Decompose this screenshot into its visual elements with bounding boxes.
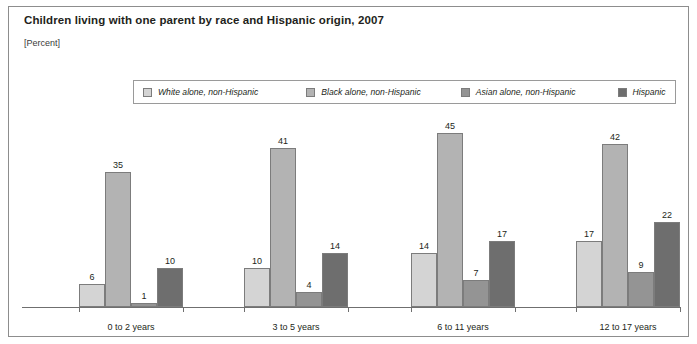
- bar[interactable]: [489, 241, 515, 307]
- bar-value-label: 7: [463, 268, 489, 278]
- bar-value-label: 14: [322, 241, 348, 251]
- legend-swatch-icon: [143, 88, 152, 97]
- legend-item-2[interactable]: Asian alone, non-Hispanic: [461, 87, 576, 97]
- bar-column[interactable]: 35: [105, 110, 131, 307]
- bar-column[interactable]: 6: [79, 110, 105, 307]
- bar-value-label: 4: [296, 280, 322, 290]
- bar-group: 1445717: [411, 110, 515, 307]
- bar[interactable]: [628, 272, 654, 307]
- bar[interactable]: [576, 241, 602, 307]
- legend-swatch-icon: [306, 88, 315, 97]
- bar-value-label: 6: [79, 272, 105, 282]
- x-axis-tick: [348, 307, 349, 312]
- x-axis-tick: [411, 307, 412, 312]
- legend-label: Asian alone, non-Hispanic: [476, 87, 576, 97]
- bar-value-label: 9: [628, 260, 654, 270]
- bar-value-label: 14: [411, 241, 437, 251]
- legend-label: Black alone, non-Hispanic: [321, 87, 420, 97]
- bar-column[interactable]: 10: [157, 110, 183, 307]
- legend-swatch-icon: [618, 88, 627, 97]
- bar-column[interactable]: 14: [411, 110, 437, 307]
- bar[interactable]: [654, 222, 680, 307]
- x-axis-category-label: 3 to 5 years: [272, 322, 319, 332]
- x-axis-tick: [515, 307, 516, 312]
- bar-column[interactable]: 17: [489, 110, 515, 307]
- x-axis-tick: [183, 307, 184, 312]
- bar[interactable]: [244, 268, 270, 307]
- legend-label: Hispanic: [633, 87, 666, 97]
- bar-column[interactable]: 17: [576, 110, 602, 307]
- bar[interactable]: [322, 253, 348, 307]
- bar-column[interactable]: 14: [322, 110, 348, 307]
- bar[interactable]: [463, 280, 489, 307]
- x-axis-tick: [576, 307, 577, 312]
- bar-column[interactable]: 9: [628, 110, 654, 307]
- bar-column[interactable]: 7: [463, 110, 489, 307]
- bar-column[interactable]: 41: [270, 110, 296, 307]
- chart-subtitle: [Percent]: [24, 38, 60, 48]
- chart-legend: White alone, non-HispanicBlack alone, no…: [133, 80, 676, 104]
- bar-value-label: 17: [489, 229, 515, 239]
- bar-column[interactable]: 10: [244, 110, 270, 307]
- bar-column[interactable]: 45: [437, 110, 463, 307]
- bar[interactable]: [270, 148, 296, 307]
- bar[interactable]: [79, 284, 105, 307]
- bar-value-label: 17: [576, 229, 602, 239]
- bar-value-label: 1: [131, 291, 157, 301]
- bar[interactable]: [437, 133, 463, 307]
- chart-figure: Children living with one parent by race …: [0, 0, 697, 344]
- x-axis-tick: [244, 307, 245, 312]
- bar-column[interactable]: 42: [602, 110, 628, 307]
- x-axis-category-label: 0 to 2 years: [107, 322, 154, 332]
- legend-label: White alone, non-Hispanic: [158, 87, 258, 97]
- bar-value-label: 10: [244, 256, 270, 266]
- bar-group: 1742922: [576, 110, 680, 307]
- x-axis-line: [22, 307, 680, 308]
- bar[interactable]: [105, 172, 131, 307]
- x-axis-category-label: 12 to 17 years: [599, 322, 656, 332]
- x-axis-tick: [79, 307, 80, 312]
- legend-item-1[interactable]: Black alone, non-Hispanic: [306, 87, 420, 97]
- bar-group: 635110: [79, 110, 183, 307]
- bar-value-label: 42: [602, 132, 628, 142]
- bar-column[interactable]: 4: [296, 110, 322, 307]
- bar[interactable]: [602, 144, 628, 307]
- bar-column[interactable]: 1: [131, 110, 157, 307]
- plot-area: 635110104141414457171742922: [22, 110, 680, 307]
- bar[interactable]: [411, 253, 437, 307]
- bar-column[interactable]: 22: [654, 110, 680, 307]
- bar-value-label: 45: [437, 121, 463, 131]
- legend-swatch-icon: [461, 88, 470, 97]
- bar-value-label: 41: [270, 136, 296, 146]
- bar-value-label: 10: [157, 256, 183, 266]
- chart-title: Children living with one parent by race …: [24, 14, 384, 26]
- bar-value-label: 35: [105, 160, 131, 170]
- x-axis-category-label: 6 to 11 years: [437, 322, 488, 332]
- bar[interactable]: [296, 292, 322, 307]
- bar[interactable]: [157, 268, 183, 307]
- x-axis-tick: [680, 307, 681, 312]
- bar-value-label: 22: [654, 210, 680, 220]
- bar-group: 1041414: [244, 110, 348, 307]
- legend-item-3[interactable]: Hispanic: [618, 87, 666, 97]
- legend-item-0[interactable]: White alone, non-Hispanic: [143, 87, 258, 97]
